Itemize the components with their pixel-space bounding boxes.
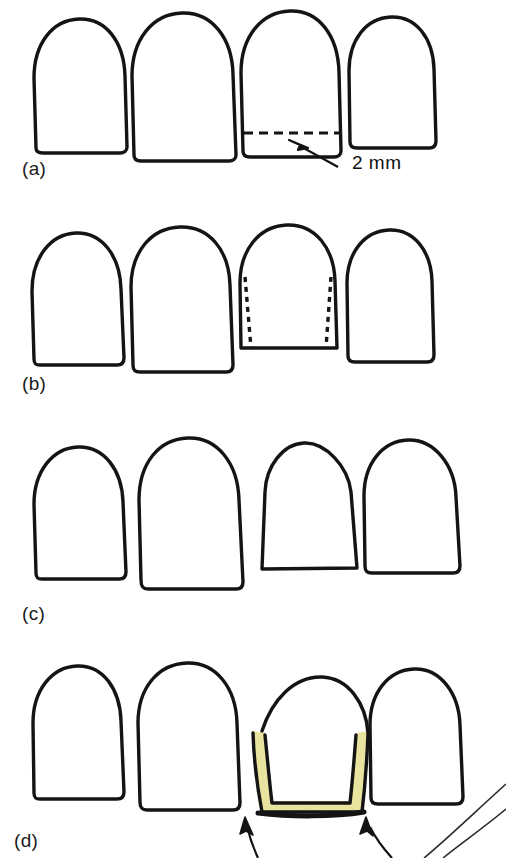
panel-a-drawing [0,0,506,215]
panel-d: (d) [0,645,506,858]
tooth-2-outline [138,663,240,810]
tooth-1-outline [32,233,124,365]
tooth-1-outline [34,447,126,579]
arrowhead-icon-left [240,817,253,835]
tooth-3-outline-shortened [240,225,337,348]
reference-curve-outer [424,784,506,858]
panel-b-label: (b) [22,373,46,395]
panel-a: (a) 2 mm [0,0,506,215]
panel-d-drawing [0,645,506,858]
axial-reduction-dashed-line-mesial [245,277,251,348]
tooth-3-outline [241,11,341,157]
axial-reduction-dashed-line-distal [326,277,331,348]
tooth-2-outline [132,13,236,161]
panel-c-label: (c) [22,603,45,625]
arrowhead-icon-right [360,817,373,836]
panel-b-drawing [0,215,506,430]
tooth-1-outline [33,666,124,799]
tooth-2-outline [131,227,233,372]
tooth-4-outline [364,440,460,573]
panel-d-label: (d) [14,830,38,852]
panel-c: (c) [0,430,506,645]
margin-arrow-right [370,827,392,858]
tooth-4-outline [370,669,463,804]
tooth-3-outline-prepared [262,443,357,569]
reference-curve-lines [424,784,506,858]
tooth-4-outline [347,230,434,362]
tooth-4-outline [349,17,436,148]
tooth-1-outline [34,19,127,153]
panel-c-drawing [0,430,506,645]
arrowhead-icon [289,140,308,150]
tooth-2-outline [139,438,243,589]
panel-a-label: (a) [22,158,46,180]
tooth-3-crown-outline [265,735,356,803]
measurement-label-2mm: 2 mm [352,152,402,174]
panel-b: (b) [0,215,506,430]
tooth-preparation-figure: (a) 2 mm (b) [0,0,506,858]
